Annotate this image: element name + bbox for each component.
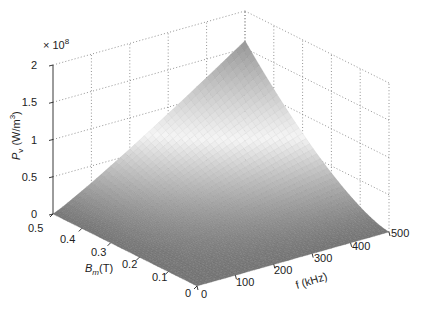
z-exponent-label: × 108 (43, 37, 70, 51)
b-tick-0: 0 (185, 287, 191, 299)
f-tick-200: 200 (274, 264, 292, 276)
b-tick-0.2: 0.2 (122, 258, 137, 270)
z-tick-1: 1 (31, 134, 37, 146)
z-tick-2: 2 (31, 59, 37, 71)
b-tick-0.4: 0.4 (60, 233, 75, 245)
f-axis-label: f (kHz) (294, 270, 328, 291)
z-tick-0: 0 (31, 208, 37, 220)
f-tick-0: 0 (201, 288, 207, 300)
b-tick-0.3: 0.3 (91, 246, 106, 258)
b-tick-0.5: 0.5 (28, 222, 43, 234)
f-tick-300: 300 (314, 252, 332, 264)
z-tick-0.5: 0.5 (22, 171, 37, 183)
b-tick-0.1: 0.1 (152, 271, 167, 283)
f-tick-100: 100 (236, 276, 254, 288)
b-axis-label: Bm(T) (85, 262, 113, 277)
surface-chart: × 108 2 1.5 1 0.5 0 Pv (W/m3) 0.5 0.4 0.… (0, 0, 421, 314)
f-tick-500: 500 (391, 227, 409, 239)
z-tick-1.5: 1.5 (22, 96, 37, 108)
f-tick-400: 400 (352, 240, 370, 252)
z-axis-label: Pv (W/m3) (8, 111, 25, 160)
